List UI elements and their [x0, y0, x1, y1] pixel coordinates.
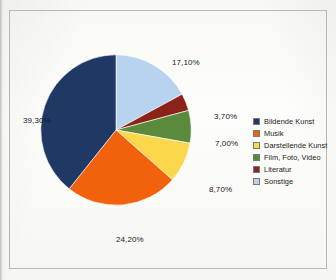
- legend-color-swatch: [253, 142, 260, 149]
- legend-item[interactable]: Musik: [253, 128, 336, 139]
- slice-value-label-bildende-kunst: 39,30%: [23, 116, 51, 125]
- legend-color-swatch: [253, 154, 260, 161]
- slice-value-label-film-foto-video: 7,00%: [215, 139, 238, 148]
- slice-value-label-darstellende-kunst: 8,70%: [209, 185, 232, 194]
- pie-slices: [41, 55, 191, 205]
- legend-item-label: Bildende Kunst: [264, 117, 314, 126]
- chart-legend: Bildende KunstMusikDarstellende KunstFil…: [253, 116, 336, 188]
- legend-item-label: Sonstige: [264, 177, 293, 186]
- slice-value-label-literatur: 3,70%: [214, 112, 237, 121]
- legend-color-swatch: [253, 166, 260, 173]
- slice-value-label-musik: 24,20%: [116, 235, 144, 244]
- legend-item[interactable]: Film, Foto, Video: [253, 152, 336, 163]
- legend-color-swatch: [253, 130, 260, 137]
- legend-item-label: Literatur: [264, 165, 292, 174]
- pie-svg: [40, 54, 192, 206]
- pie-chart-figure: 17,10% 3,70% 7,00% 8,70% 24,20% 39,30% B…: [0, 0, 336, 280]
- page-edge-artifact: [0, 0, 3, 280]
- legend-item[interactable]: Bildende Kunst: [253, 116, 336, 127]
- legend-color-swatch: [253, 178, 260, 185]
- legend-item-label: Darstellende Kunst: [264, 141, 327, 150]
- slice-value-label-sonstige: 17,10%: [172, 58, 200, 67]
- legend-item-label: Musik: [264, 129, 284, 138]
- legend-item[interactable]: Sonstige: [253, 176, 336, 187]
- legend-item[interactable]: Darstellende Kunst: [253, 140, 336, 151]
- plot-area: 17,10% 3,70% 7,00% 8,70% 24,20% 39,30% B…: [12, 12, 324, 267]
- pie-graphic: [40, 54, 192, 206]
- legend-item[interactable]: Literatur: [253, 164, 336, 175]
- legend-item-label: Film, Foto, Video: [264, 153, 321, 162]
- legend-color-swatch: [253, 118, 260, 125]
